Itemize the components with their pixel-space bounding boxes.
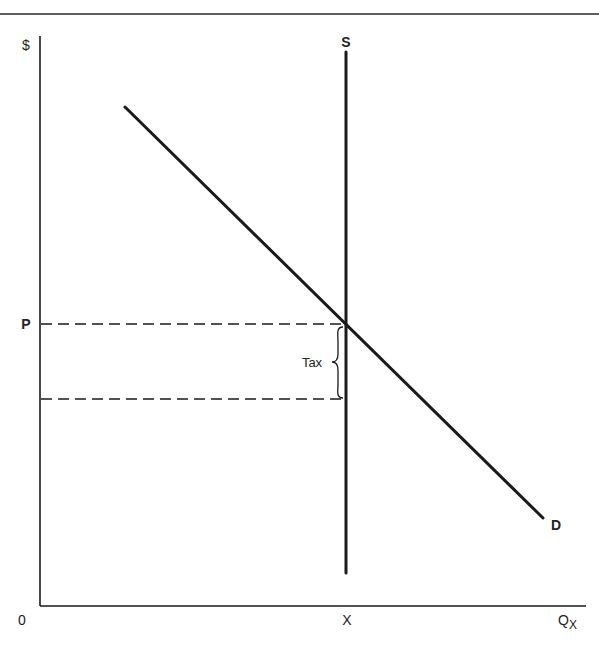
demand-label: D [551,517,561,533]
tax-brace [332,327,343,398]
x-axis-label: QX [558,612,577,632]
x-axis-label-sub: X [569,618,577,632]
demand-curve [125,107,543,518]
tax-label: Tax [302,355,323,370]
origin-label: 0 [18,612,26,628]
supply-label: S [341,34,350,50]
price-p-label: P [21,316,30,332]
tax-incidence-chart: $ 0 X QX P S D Tax [0,0,599,655]
x-tick-label: X [342,612,352,628]
x-axis-label-main: Q [558,612,569,628]
y-axis-label: $ [22,37,30,53]
